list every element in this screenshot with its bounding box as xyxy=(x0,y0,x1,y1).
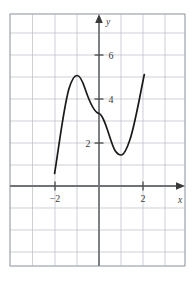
y-axis-label: y xyxy=(105,17,111,27)
y-tick-label-6: 6 xyxy=(109,50,114,61)
coordinate-plane-figure: 6 4 2 −2 2 y x xyxy=(0,0,196,282)
y-tick-label-4: 4 xyxy=(109,94,114,105)
figure-background xyxy=(0,0,196,282)
x-axis-label: x xyxy=(177,195,183,205)
y-tick-label-2: 2 xyxy=(86,138,91,149)
x-tick-label-neg2: −2 xyxy=(50,193,61,204)
x-tick-label-2: 2 xyxy=(141,193,146,204)
graph-screenshot: 6 4 2 −2 2 y x xyxy=(0,0,196,282)
